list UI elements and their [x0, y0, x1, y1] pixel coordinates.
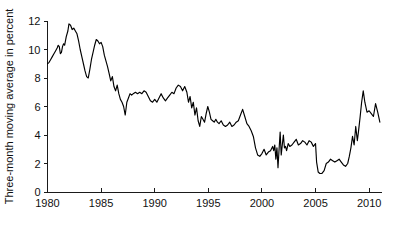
x-tick-label: 1995	[196, 197, 220, 209]
y-tick-label: 6	[34, 101, 40, 113]
chart-figure: 024681012 1980198519901995200020052010 T…	[0, 0, 395, 226]
x-tick-label: 2005	[303, 197, 327, 209]
x-tick-label: 2000	[250, 197, 274, 209]
x-tick-label: 1980	[35, 197, 59, 209]
y-tick-label: 8	[34, 72, 40, 84]
y-tick-label: 4	[34, 129, 40, 141]
x-tick-label: 2010	[357, 197, 381, 209]
y-axis-title: Three-month moving average in percent	[3, 9, 15, 205]
x-tick-label: 1990	[142, 197, 166, 209]
y-tick-label: 2	[34, 158, 40, 170]
y-axis-title-text: Three-month moving average in percent	[3, 9, 15, 205]
chart-canvas: 024681012 1980198519901995200020052010 T…	[0, 0, 395, 226]
y-tick-label: 12	[28, 15, 40, 27]
y-tick-label: 10	[28, 44, 40, 56]
x-tick-label: 1985	[89, 197, 113, 209]
